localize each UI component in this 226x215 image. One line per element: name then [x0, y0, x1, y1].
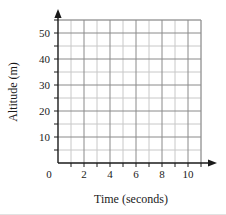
- y-tick-label: 50: [39, 27, 51, 39]
- origin-tick-label: 0: [46, 168, 52, 180]
- bottom-divider: [0, 214, 226, 215]
- y-tick-label: 10: [39, 131, 51, 143]
- y-tick-label: 30: [39, 79, 51, 91]
- x-tick-label: 2: [81, 168, 87, 180]
- chart-container: 246810 1020304050 0 Time (seconds) Altit…: [0, 0, 226, 215]
- x-tick-label: 6: [133, 168, 139, 180]
- y-tick-label: 40: [39, 53, 51, 65]
- y-tick-label: 20: [39, 105, 51, 117]
- x-tick-label: 10: [183, 168, 195, 180]
- x-tick-label: 8: [159, 168, 165, 180]
- y-axis-title: Altitude (m): [6, 62, 20, 122]
- altitude-vs-time-grid-chart: 246810 1020304050 0 Time (seconds) Altit…: [0, 0, 226, 215]
- x-axis-title: Time (seconds): [94, 192, 168, 206]
- x-tick-label: 4: [107, 168, 113, 180]
- chart-background: [0, 0, 226, 215]
